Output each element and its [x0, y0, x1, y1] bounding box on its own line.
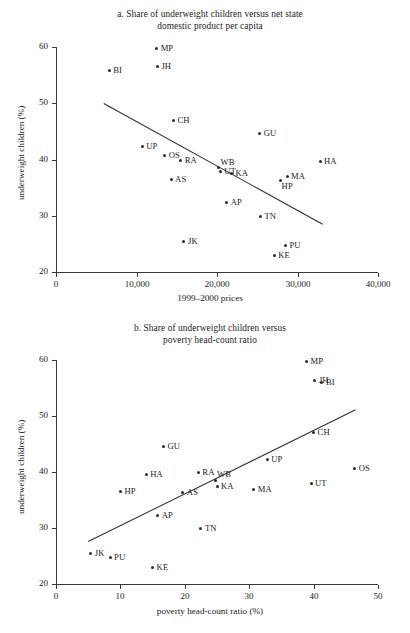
data-point: [259, 215, 262, 218]
y-axis-tick-label: 50: [22, 410, 48, 420]
data-point: [151, 566, 154, 569]
data-point: [216, 485, 219, 488]
data-point: [108, 69, 111, 72]
x-axis-tick: [137, 273, 138, 277]
data-point-label: MA: [258, 484, 272, 494]
data-point: [197, 471, 200, 474]
data-point: [156, 514, 159, 517]
data-point-label: HP: [124, 486, 135, 496]
chart-panel-b: b. Share of underweight children versus …: [0, 316, 410, 633]
x-axis-title: poverty head-count ratio (%): [40, 606, 380, 616]
data-point-label: JK: [188, 236, 198, 246]
y-axis-line: [56, 47, 57, 272]
x-axis-tick: [378, 585, 379, 589]
data-point-label: BI: [326, 377, 335, 387]
data-point: [172, 119, 175, 122]
x-axis-tick-label: 40,000: [350, 279, 406, 289]
trend-line: [104, 103, 323, 225]
figure-root: a. Share of underweight children versus …: [0, 0, 410, 633]
data-point: [156, 65, 159, 68]
data-point: [155, 47, 158, 50]
data-point-label: AS: [175, 174, 186, 184]
data-point-label: WB: [217, 469, 231, 479]
data-point-label: KA: [221, 481, 234, 491]
data-point-label: RA: [185, 155, 197, 165]
data-point: [182, 240, 185, 243]
data-point-label: MP: [161, 43, 174, 53]
data-point-label: HA: [324, 156, 337, 166]
x-axis-tick: [298, 273, 299, 277]
y-axis-tick-label: 30: [22, 522, 48, 532]
y-axis-tick: [52, 160, 56, 161]
data-point: [179, 159, 182, 162]
data-point-label: KE: [278, 250, 290, 260]
data-point-label: KE: [157, 562, 169, 572]
x-axis-tick: [249, 585, 250, 589]
data-point-label: UP: [271, 454, 282, 464]
data-point: [170, 178, 173, 181]
x-axis-tick-label: 40: [286, 591, 342, 601]
data-point-label: AS: [187, 487, 198, 497]
data-point-label: HA: [150, 469, 163, 479]
data-point: [163, 154, 166, 157]
data-point: [284, 244, 287, 247]
x-axis-tick: [314, 585, 315, 589]
data-point: [313, 379, 316, 382]
panel-a-title-line1: a. Share of underweight children versus …: [40, 8, 380, 20]
data-point: [141, 145, 144, 148]
y-axis-tick: [52, 528, 56, 529]
data-point: [258, 132, 261, 135]
y-axis-tick-label: 20: [22, 266, 48, 276]
x-axis-tick: [217, 273, 218, 277]
x-axis-tick-label: 20,000: [189, 279, 245, 289]
data-point-label: AP: [231, 197, 242, 207]
data-point: [353, 467, 356, 470]
data-point-label: GU: [168, 441, 181, 451]
data-point-label: CH: [178, 115, 190, 125]
data-point: [319, 160, 322, 163]
panel-b-title-line2: poverty head-count ratio: [40, 334, 380, 346]
data-point-label: PU: [114, 552, 125, 562]
panel-a-title-line2: domestic product per capita: [40, 20, 380, 32]
x-axis-tick: [56, 585, 57, 589]
x-axis-tick: [120, 585, 121, 589]
data-point-label: CH: [318, 427, 330, 437]
data-point-label: HP: [282, 181, 293, 191]
data-point-label: TN: [205, 523, 217, 533]
data-point: [162, 445, 165, 448]
data-point: [109, 556, 112, 559]
y-axis-title: underweight children (%): [16, 420, 26, 514]
x-axis-tick: [56, 273, 57, 277]
data-point-label: RA: [202, 467, 214, 477]
x-axis-tick-label: 20: [157, 591, 213, 601]
y-axis-title: underweight children (%): [16, 106, 26, 200]
x-axis-tick-label: 0: [28, 591, 84, 601]
data-point: [219, 170, 222, 173]
data-point: [310, 482, 313, 485]
data-point: [89, 552, 92, 555]
data-point-label: OS: [359, 463, 370, 473]
data-point-label: GU: [264, 128, 277, 138]
x-axis-tick-label: 10: [92, 591, 148, 601]
y-axis-tick-label: 30: [22, 210, 48, 220]
y-axis-tick-label: 60: [22, 41, 48, 51]
data-point-label: BI: [113, 65, 122, 75]
x-axis-tick: [378, 273, 379, 277]
x-axis-tick-label: 0: [28, 279, 84, 289]
data-point-label: JK: [95, 548, 105, 558]
data-point: [252, 488, 255, 491]
data-point-label: UT: [315, 478, 327, 488]
data-point: [312, 431, 315, 434]
data-point-label: MA: [291, 171, 305, 181]
data-point-label: JH: [161, 61, 171, 71]
data-point-label: KA: [235, 168, 248, 178]
x-axis-tick-label: 30: [221, 591, 277, 601]
data-point-label: PU: [289, 240, 300, 250]
panel-b-title-line1: b. Share of underweight children versus: [40, 322, 380, 334]
data-point: [286, 175, 289, 178]
y-axis-tick: [52, 472, 56, 473]
y-axis-tick: [52, 360, 56, 361]
x-axis-tick-label: 10,000: [109, 279, 165, 289]
data-point-label: TN: [264, 211, 276, 221]
data-point: [273, 254, 276, 257]
